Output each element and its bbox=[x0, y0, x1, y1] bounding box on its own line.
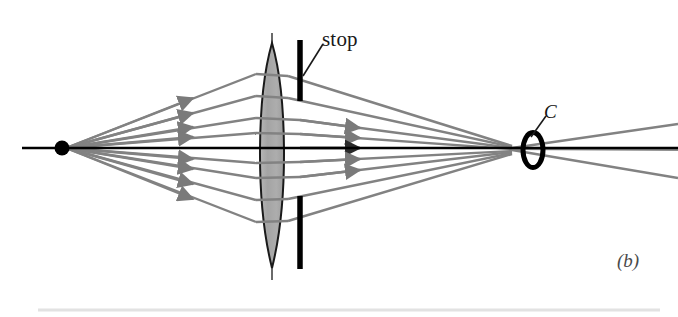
incoming-ray bbox=[66, 148, 256, 222]
stop-leader-line bbox=[303, 44, 323, 76]
source-point bbox=[55, 141, 70, 156]
converging-lens bbox=[260, 33, 284, 280]
lens-body bbox=[260, 43, 284, 268]
circle-of-least-confusion-label: C bbox=[544, 101, 557, 123]
panel-label: (b) bbox=[617, 250, 639, 272]
outgoing-ray bbox=[256, 154, 512, 222]
outgoing-ray bbox=[256, 133, 512, 149]
stop-label: stop bbox=[322, 27, 358, 52]
incoming-ray bbox=[66, 74, 256, 148]
outgoing-ray bbox=[256, 74, 512, 146]
optics-figure-panel: stop C (b) bbox=[0, 0, 678, 317]
